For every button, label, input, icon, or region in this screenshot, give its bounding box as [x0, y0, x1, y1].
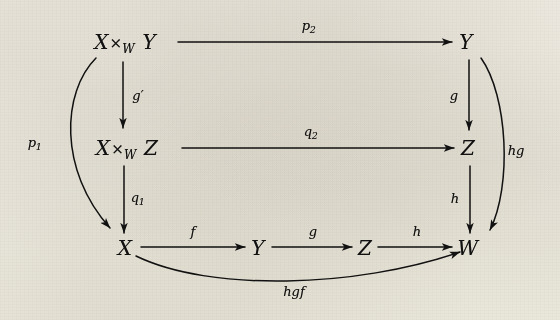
node-z-mid-label: Z: [461, 136, 475, 160]
label-p1: p1: [28, 136, 42, 149]
label-q1: q1: [131, 191, 145, 204]
label-h-bottom: h: [413, 225, 421, 238]
label-q2-subscript: 2: [312, 130, 318, 141]
node-x-times-w-z-base: X: [96, 136, 110, 160]
arrow-hgf-curve: [136, 252, 460, 281]
label-p2-subscript: 2: [310, 24, 316, 35]
node-z-mid: Z: [461, 138, 475, 158]
node-y-top: Y: [459, 32, 472, 52]
node-x-times-w-z-tail: Z: [144, 136, 158, 160]
label-q1-subscript: 1: [139, 196, 145, 207]
label-hg: hg: [508, 144, 525, 157]
node-y-bottom-label: Y: [251, 236, 264, 260]
label-hg-base: hg: [508, 143, 525, 158]
node-x-times-w-y-tail: Y: [142, 30, 155, 54]
label-h-right-base: h: [451, 191, 459, 206]
label-p2: p2: [302, 19, 316, 32]
subscript-w: W: [122, 42, 135, 56]
node-z-bottom: Z: [358, 238, 372, 258]
label-q2: q2: [304, 125, 318, 138]
label-hgf: hgf: [283, 285, 305, 298]
node-z-bottom-label: Z: [358, 236, 372, 260]
label-f: f: [191, 225, 196, 238]
label-h-bottom-base: h: [413, 224, 421, 239]
node-x-times-w-y-base: X: [94, 30, 108, 54]
node-x-bottom-label: X: [118, 236, 132, 260]
label-g-bottom-base: g: [309, 224, 317, 239]
node-y-top-label: Y: [459, 30, 472, 54]
label-g-bottom: g: [309, 225, 317, 238]
label-hgf-base: hgf: [283, 284, 305, 299]
node-w-bottom: W: [458, 238, 479, 258]
label-f-base: f: [191, 224, 196, 239]
label-g-prime: g′: [132, 89, 143, 102]
arrow-hg-curve: [481, 58, 504, 230]
label-g-prime-base: g′: [132, 88, 143, 103]
label-g-right: g: [450, 89, 458, 102]
label-p1-subscript: 1: [36, 141, 42, 152]
commutative-diagram-canvas: [0, 0, 560, 320]
node-w-bottom-label: W: [458, 236, 479, 260]
label-h-right: h: [451, 192, 459, 205]
node-x-times-w-z: X×W Z: [96, 138, 158, 158]
node-x-bottom: X: [118, 238, 132, 258]
subscript-w: W: [124, 148, 137, 162]
node-x-times-w-y: X×W Y: [94, 32, 156, 52]
label-g-right-base: g: [450, 88, 458, 103]
node-y-bottom: Y: [251, 238, 264, 258]
